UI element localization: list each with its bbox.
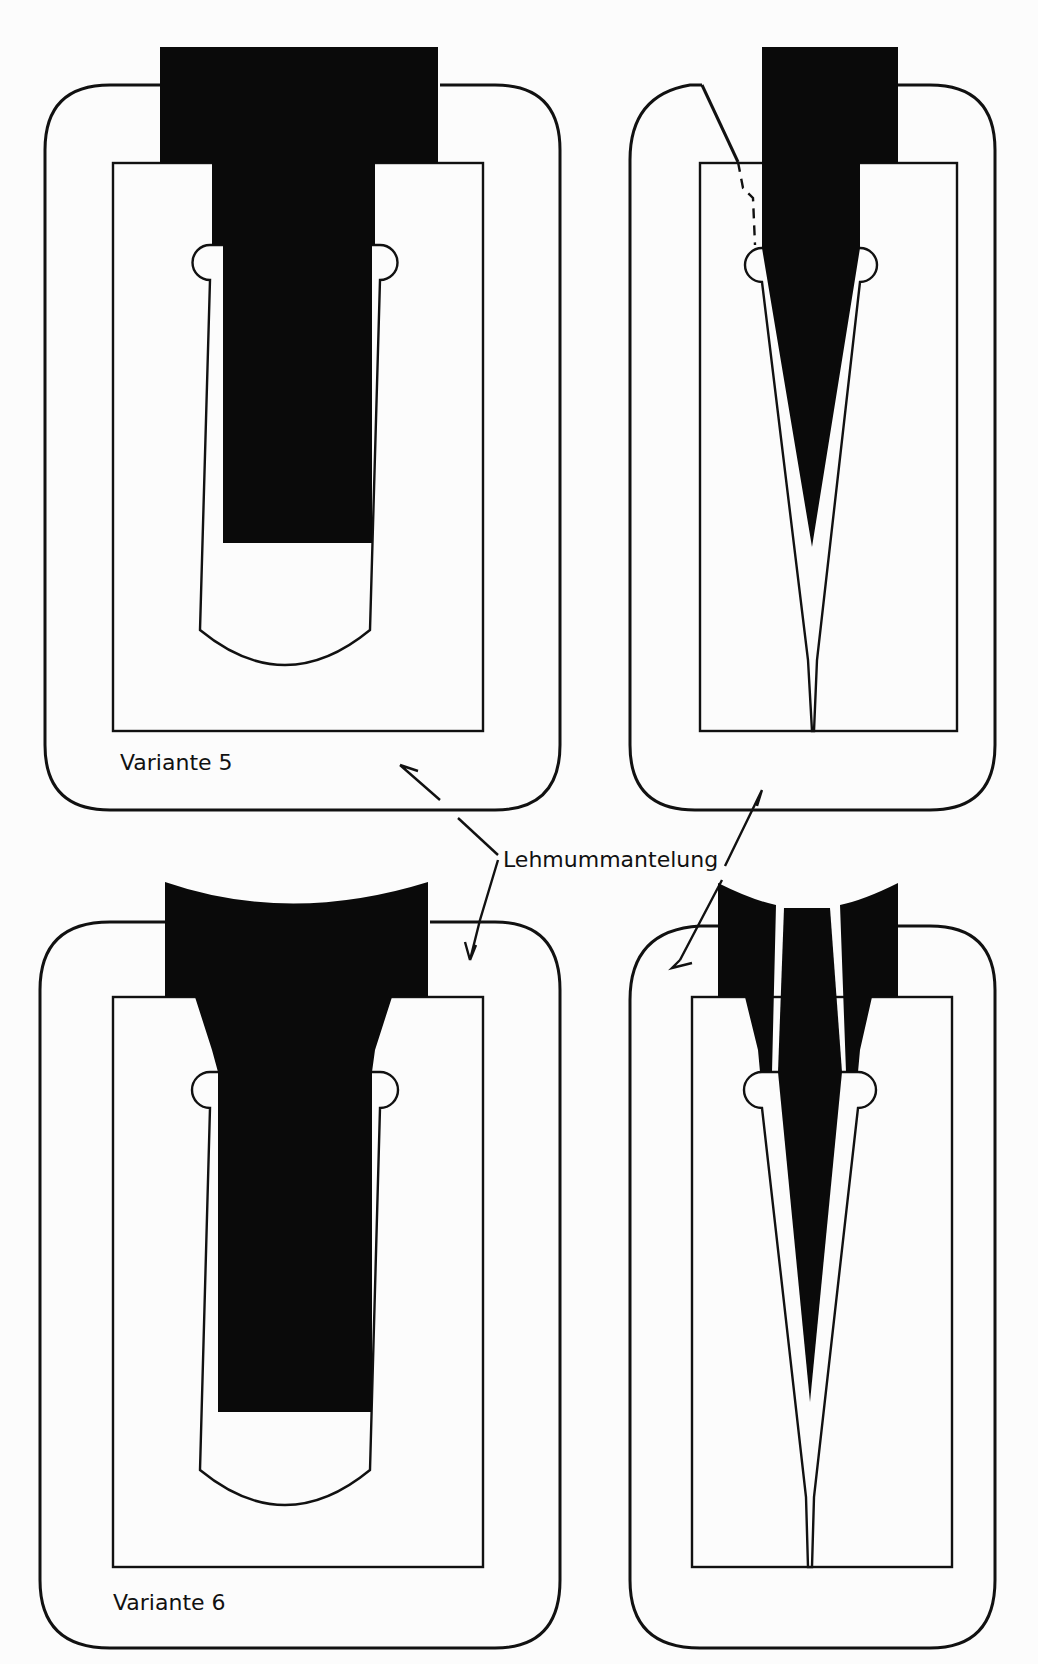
diagram-canvas: Variante 5 Lehmummantelung Variante 6: [0, 0, 1038, 1664]
lehmummantelung-label: Lehmummantelung: [503, 847, 718, 872]
variant-5-label: Variante 5: [120, 750, 233, 775]
variant-6-label: Variante 6: [113, 1590, 226, 1615]
arrow-variant6: [465, 860, 498, 960]
arrow-variant5: [400, 765, 440, 800]
annotation-lehmummantelung: Lehmummantelung: [400, 765, 762, 968]
arrow-right-bottom: [672, 880, 722, 968]
arrow-right-top: [725, 790, 762, 866]
break-line: [702, 85, 738, 162]
panel-variante-5-right: [630, 47, 995, 810]
leader-line: [458, 818, 498, 855]
panel-variante-6-right: [630, 883, 995, 1648]
panel-variante-6: Variante 6: [40, 882, 560, 1648]
panel-variante-5: Variante 5: [45, 47, 560, 810]
